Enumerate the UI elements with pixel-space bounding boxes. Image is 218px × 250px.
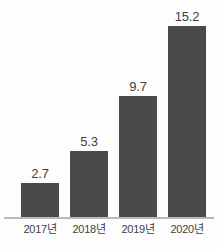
- bar-value-label: 5.3: [61, 135, 117, 149]
- plot-area: 2.7 5.3 9.7 15.2: [0, 0, 218, 218]
- category-label: 2017년: [12, 221, 68, 237]
- bar[interactable]: [70, 151, 108, 218]
- bar-group: 15.2: [168, 0, 206, 218]
- category-axis: 2017년 2018년 2019년 2020년: [0, 221, 218, 239]
- bar-chart: 2.7 5.3 9.7 15.2 2017년 2018년 2019년 2020년: [0, 0, 218, 250]
- category-label: 2019년: [110, 221, 166, 237]
- bar[interactable]: [21, 183, 59, 218]
- axis-baseline: [4, 217, 214, 219]
- bar[interactable]: [119, 96, 157, 218]
- bar-group: 5.3: [70, 0, 108, 218]
- bar-value-label: 9.7: [110, 80, 166, 94]
- bar-group: 2.7: [21, 0, 59, 218]
- bar-group: 9.7: [119, 0, 157, 218]
- bar-value-label: 2.7: [12, 167, 68, 181]
- category-label: 2020년: [159, 221, 215, 237]
- bar[interactable]: [168, 26, 206, 218]
- category-label: 2018년: [61, 221, 117, 237]
- bar-value-label: 15.2: [159, 10, 215, 24]
